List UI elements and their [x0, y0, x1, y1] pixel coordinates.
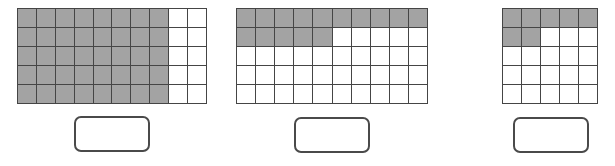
shaded-cell: [131, 9, 150, 28]
unshaded-cell: [169, 66, 188, 85]
shaded-cell: [37, 9, 56, 28]
unshaded-cell: [371, 85, 390, 104]
answer-box-1[interactable]: [74, 116, 150, 152]
unshaded-cell: [352, 66, 371, 85]
unshaded-cell: [237, 85, 256, 104]
unshaded-cell: [390, 66, 409, 85]
shaded-cell: [18, 9, 37, 28]
shaded-cell: [313, 9, 332, 28]
shaded-cell: [112, 47, 131, 66]
unshaded-cell: [371, 66, 390, 85]
unshaded-cell: [541, 28, 560, 47]
shaded-cell: [275, 9, 294, 28]
unshaded-cell: [503, 85, 522, 104]
shaded-cell: [256, 28, 275, 47]
unshaded-cell: [371, 47, 390, 66]
unshaded-cell: [579, 85, 598, 104]
shaded-cell: [112, 28, 131, 47]
shaded-cell: [18, 47, 37, 66]
shaded-cell: [150, 28, 169, 47]
shaded-cell: [75, 9, 94, 28]
shaded-cell: [541, 9, 560, 28]
answer-box-2[interactable]: [294, 117, 370, 153]
shaded-cell: [94, 9, 113, 28]
unshaded-cell: [169, 28, 188, 47]
shaded-cell: [237, 9, 256, 28]
unshaded-cell: [579, 47, 598, 66]
shaded-cell: [503, 9, 522, 28]
fraction-grid-3: [502, 8, 598, 104]
unshaded-cell: [560, 85, 579, 104]
unshaded-cell: [560, 47, 579, 66]
unshaded-cell: [188, 28, 207, 47]
unshaded-cell: [294, 47, 313, 66]
shaded-cell: [150, 85, 169, 104]
unshaded-cell: [237, 47, 256, 66]
shaded-cell: [18, 85, 37, 104]
shaded-cell: [150, 47, 169, 66]
shaded-cell: [313, 28, 332, 47]
shaded-cell: [150, 66, 169, 85]
unshaded-cell: [390, 85, 409, 104]
shaded-cell: [94, 66, 113, 85]
shaded-cell: [256, 9, 275, 28]
shaded-cell: [150, 9, 169, 28]
unshaded-cell: [275, 85, 294, 104]
shaded-cell: [294, 9, 313, 28]
shaded-cell: [18, 28, 37, 47]
shaded-cell: [56, 47, 75, 66]
shaded-cell: [94, 47, 113, 66]
unshaded-cell: [522, 85, 541, 104]
shaded-cell: [294, 28, 313, 47]
shaded-cell: [37, 47, 56, 66]
shaded-cell: [94, 28, 113, 47]
fraction-grid-1: [17, 8, 207, 104]
shaded-cell: [75, 47, 94, 66]
unshaded-cell: [169, 9, 188, 28]
unshaded-cell: [352, 85, 371, 104]
shaded-cell: [112, 9, 131, 28]
unshaded-cell: [275, 66, 294, 85]
unshaded-cell: [409, 47, 428, 66]
unshaded-cell: [390, 28, 409, 47]
unshaded-cell: [313, 47, 332, 66]
unshaded-cell: [352, 47, 371, 66]
shaded-cell: [112, 66, 131, 85]
unshaded-cell: [333, 47, 352, 66]
unshaded-cell: [275, 47, 294, 66]
shaded-cell: [37, 28, 56, 47]
answer-box-3[interactable]: [513, 117, 589, 153]
unshaded-cell: [188, 85, 207, 104]
unshaded-cell: [522, 47, 541, 66]
shaded-cell: [37, 66, 56, 85]
shaded-cell: [56, 28, 75, 47]
unshaded-cell: [579, 66, 598, 85]
unshaded-cell: [541, 66, 560, 85]
shaded-cell: [75, 28, 94, 47]
shaded-cell: [37, 85, 56, 104]
unshaded-cell: [409, 85, 428, 104]
unshaded-cell: [522, 66, 541, 85]
unshaded-cell: [541, 85, 560, 104]
shaded-cell: [112, 85, 131, 104]
unshaded-cell: [333, 85, 352, 104]
unshaded-cell: [256, 85, 275, 104]
shaded-cell: [371, 9, 390, 28]
unshaded-cell: [333, 66, 352, 85]
shaded-cell: [94, 85, 113, 104]
unshaded-cell: [409, 66, 428, 85]
shaded-cell: [131, 47, 150, 66]
unshaded-cell: [560, 28, 579, 47]
shaded-cell: [560, 9, 579, 28]
shaded-cell: [18, 66, 37, 85]
shaded-cell: [131, 28, 150, 47]
unshaded-cell: [188, 9, 207, 28]
shaded-cell: [275, 28, 294, 47]
unshaded-cell: [256, 66, 275, 85]
unshaded-cell: [169, 47, 188, 66]
unshaded-cell: [313, 66, 332, 85]
unshaded-cell: [541, 47, 560, 66]
unshaded-cell: [503, 66, 522, 85]
unshaded-cell: [352, 28, 371, 47]
shaded-cell: [56, 9, 75, 28]
